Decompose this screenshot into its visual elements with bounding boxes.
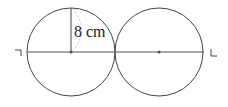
right-center-dot — [157, 50, 160, 53]
left-center-dot — [69, 50, 72, 53]
two-circles-diagram — [0, 0, 228, 107]
left-corner-mark — [15, 50, 21, 56]
radius-label: 8 cm — [74, 23, 106, 41]
right-corner-mark — [211, 49, 217, 56]
